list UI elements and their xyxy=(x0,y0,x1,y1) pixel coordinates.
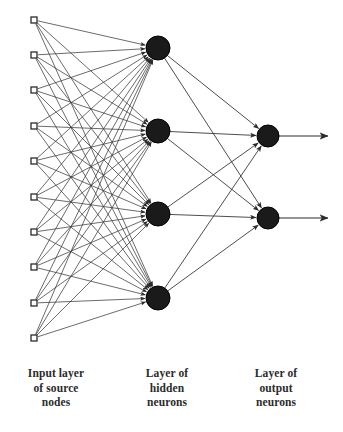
input-layer-nodes xyxy=(31,17,37,341)
edges-input-to-hidden xyxy=(36,21,153,337)
edges-hidden-to-output xyxy=(165,56,262,291)
hidden-layer-nodes xyxy=(146,36,170,310)
hidden-layer-caption: Layer of hidden neurons xyxy=(117,366,217,410)
output-layer-caption: Layer of output neurons xyxy=(222,366,330,410)
output-layer-nodes xyxy=(257,125,279,229)
input-layer-caption: Input layer of source nodes xyxy=(2,366,110,410)
output-arrows xyxy=(279,136,328,218)
diagram-canvas: Input layer of source nodes Layer of hid… xyxy=(0,0,343,432)
